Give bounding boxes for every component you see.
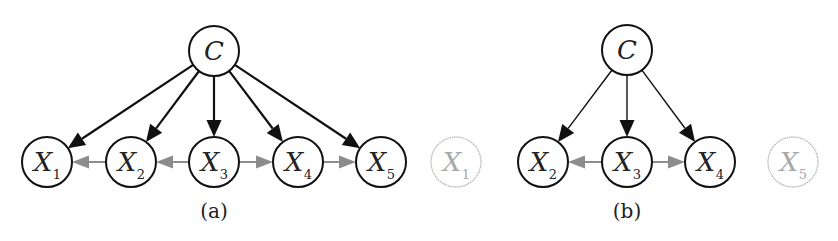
node-label: X — [283, 147, 305, 177]
lateral-edge-x3-to-x4 — [239, 156, 273, 169]
variable-node: X4 — [273, 137, 323, 187]
arrowhead-icon — [679, 124, 695, 142]
causal-edge-c-to-x2 — [558, 70, 612, 142]
node-subscript: 3 — [633, 167, 641, 182]
arrowhead-icon — [339, 156, 356, 169]
causal-edge-c-to-x3 — [207, 76, 222, 137]
variable-node: X4 — [685, 137, 735, 187]
node-label: X — [366, 147, 388, 177]
arrowhead-icon — [156, 156, 173, 169]
node-subscript: 2 — [137, 167, 145, 182]
node-label: X — [32, 147, 54, 177]
lateral-edge-x3-to-x4 — [652, 156, 685, 169]
faded-variable-node: X1 — [431, 137, 481, 187]
variable-node: X5 — [356, 137, 406, 187]
node-subscript: 1 — [53, 167, 61, 182]
arrowhead-icon — [558, 124, 574, 142]
causal-edge-c-to-x2-line — [568, 70, 612, 128]
variable-node: C — [189, 26, 239, 76]
arrowhead-icon — [267, 124, 283, 142]
arrowhead-icon — [146, 124, 162, 142]
causal-edge-c-to-x4-line — [229, 71, 273, 129]
node-label: C — [617, 35, 637, 65]
node-label: X — [441, 147, 463, 177]
variable-node: X3 — [189, 137, 239, 187]
arrowhead-icon — [207, 120, 222, 137]
faded-variable-node: X5 — [768, 137, 818, 187]
variable-node: X2 — [518, 137, 568, 187]
causal-edge-c-to-x4-line — [642, 70, 685, 128]
causal-edge-c-to-x4 — [229, 71, 283, 142]
arrowhead-icon — [72, 156, 89, 169]
node-subscript: 1 — [462, 167, 470, 182]
arrowhead-icon — [68, 133, 86, 149]
variable-node: X3 — [602, 137, 652, 187]
panel-caption-a: (a) — [200, 199, 228, 223]
arrowhead-icon — [342, 133, 360, 149]
node-label: X — [199, 147, 221, 177]
node-label: X — [612, 147, 634, 177]
node-label: C — [204, 36, 224, 66]
causal-edge-c-to-x2-line — [156, 71, 199, 128]
lateral-edge-x4-to-x5 — [323, 156, 356, 169]
arrowhead-icon — [256, 156, 273, 169]
node-subscript: 5 — [387, 167, 395, 182]
node-label: X — [695, 147, 717, 177]
causal-edge-c-to-x2 — [146, 71, 199, 142]
lateral-edge-x3-to-x2 — [156, 156, 189, 169]
node-label: X — [778, 147, 800, 177]
variable-node: X1 — [22, 137, 72, 187]
node-subscript: 4 — [716, 167, 724, 182]
node-subscript: 2 — [549, 167, 557, 182]
node-subscript: 5 — [799, 167, 807, 182]
variable-node: C — [602, 25, 652, 75]
node-subscript: 4 — [304, 167, 312, 182]
lateral-edge-x2-to-x1 — [72, 156, 106, 169]
panel-caption-b: (b) — [613, 199, 641, 223]
variable-node: X2 — [106, 137, 156, 187]
causal-edge-c-to-x4 — [642, 70, 695, 142]
arrowhead-icon — [620, 120, 635, 137]
node-subscript: 3 — [220, 167, 228, 182]
arrowhead-icon — [668, 156, 685, 169]
lateral-edge-x3-to-x2 — [568, 156, 602, 169]
causal-edge-c-to-x5 — [235, 65, 360, 148]
graphical-model-figure: CX1X2X3X4X5CX1X2X3X4X5 (a)(b) — [0, 0, 838, 241]
causal-edge-c-to-x3 — [620, 75, 635, 137]
arrowhead-icon — [568, 156, 585, 169]
node-label: X — [116, 147, 138, 177]
causal-edge-c-to-x1 — [68, 65, 193, 148]
node-label: X — [528, 147, 550, 177]
